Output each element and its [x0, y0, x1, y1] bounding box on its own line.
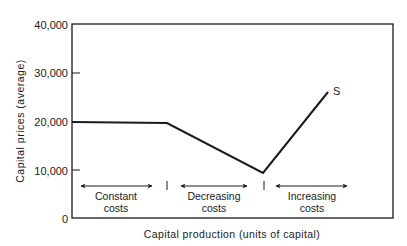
x-axis-label: Capital production (units of capital) [144, 228, 320, 240]
y-tick-label: 40,000 [34, 19, 68, 31]
y-tick-label: 30,000 [34, 67, 68, 79]
region-label-decreasing: costs [202, 202, 227, 214]
region-label-constant: costs [104, 202, 129, 214]
y-axis-label: Capital prices (average) [14, 59, 26, 182]
region-label-constant: Constant [95, 190, 137, 202]
y-tick-label: 0 [62, 213, 68, 225]
curve-label-s: S [333, 85, 340, 97]
plot-frame [72, 24, 393, 218]
supply-curve-line [72, 92, 328, 173]
supply-curve-chart: 40,000 30,000 20,000 10,000 0 Capital pr… [0, 0, 407, 246]
y-tick-label: 10,000 [34, 165, 68, 177]
region-label-decreasing: Decreasing [187, 190, 240, 202]
region-label-increasing: Increasing [288, 190, 337, 202]
y-tick-label: 20,000 [34, 116, 68, 128]
region-label-increasing: costs [300, 202, 325, 214]
